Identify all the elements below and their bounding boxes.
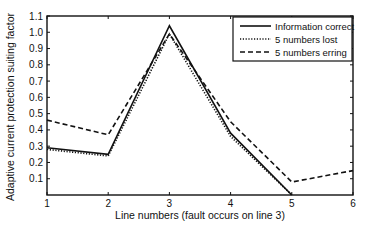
y-tick-label: 0.4 — [29, 124, 43, 135]
legend-label-5-numbers-lost: 5 numbers lost — [275, 34, 338, 45]
x-tick-label: 2 — [105, 198, 111, 209]
y-tick-label: 0.1 — [29, 173, 43, 184]
legend-label-information-correct: Information correct — [275, 21, 355, 32]
legend: Information correct 5 numbers lost 5 num… — [233, 17, 355, 61]
legend-label-5-numbers-erring: 5 numbers erring — [275, 47, 347, 58]
x-tick-label: 3 — [167, 198, 173, 209]
y-tick-label: 0.9 — [29, 43, 43, 54]
y-axis-label: Adaptive current protection suiting fact… — [4, 13, 16, 201]
y-tick-label: 0.8 — [29, 59, 43, 70]
y-tick-label: 1.0 — [29, 27, 43, 38]
x-tick-label: 5 — [289, 198, 295, 209]
y-tick-label: 0.2 — [29, 157, 43, 168]
line-chart: 0.10.20.30.40.50.60.70.80.91.01.1 123456… — [0, 0, 372, 234]
y-tick-label: 0.7 — [29, 76, 43, 87]
x-tick-label: 4 — [228, 198, 234, 209]
y-tick-label: 1.1 — [29, 11, 43, 22]
x-tick-label: 1 — [44, 198, 50, 209]
y-tick-label: 0.3 — [29, 141, 43, 152]
x-axis-label: Line numbers (fault occurs on line 3) — [115, 209, 285, 221]
x-tick-label: 6 — [350, 198, 356, 209]
y-tick-label: 0.5 — [29, 108, 43, 119]
y-tick-label: 0.6 — [29, 92, 43, 103]
